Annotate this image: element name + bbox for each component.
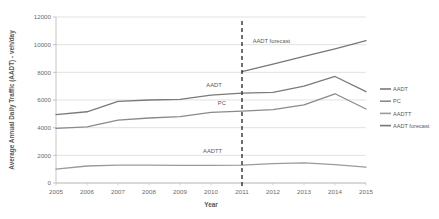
y-axis-title: Average Annual Daily Traffic (AADT) - ve… — [8, 30, 16, 170]
legend-group: AADTPCAADTTAADT forecast — [380, 86, 430, 129]
y-tick-label: 6000 — [37, 96, 51, 103]
y-tick-label: 4000 — [37, 124, 51, 131]
legend-label-aadt[interactable]: AADT — [393, 86, 409, 92]
series-line-aadtt — [56, 163, 366, 169]
x-tick-label: 2009 — [173, 188, 187, 195]
line-chart: 020004000600080001000012000 200520062007… — [0, 0, 439, 219]
chart-container: 020004000600080001000012000 200520062007… — [0, 0, 439, 219]
y-tick-label: 8000 — [37, 69, 51, 76]
x-axis-ticks-group: 2005200620072008200920102011201220132014… — [49, 183, 373, 195]
y-tick-label: 0 — [48, 179, 52, 186]
x-tick-label: 2007 — [111, 188, 125, 195]
x-tick-label: 2013 — [297, 188, 311, 195]
x-tick-label: 2008 — [142, 188, 156, 195]
series-line-pc — [56, 94, 366, 129]
axis-titles-group: Average Annual Daily Traffic (AADT) - ve… — [8, 30, 218, 208]
x-tick-label: 2012 — [266, 188, 280, 195]
legend-label-aadt-forecast[interactable]: AADT forecast — [393, 123, 430, 129]
pc-inplot-label: PC — [218, 100, 226, 106]
annotations-group: AADTPCAADTTAADT forecast — [203, 38, 291, 155]
x-tick-label: 2011 — [235, 188, 249, 195]
legend-label-pc[interactable]: PC — [393, 98, 401, 104]
x-tick-label: 2014 — [328, 188, 342, 195]
y-tick-label: 2000 — [37, 152, 51, 159]
y-axis-ticks-group: 020004000600080001000012000 — [34, 13, 56, 186]
legend-label-aadtt[interactable]: AADTT — [393, 111, 412, 117]
y-tick-label: 12000 — [34, 13, 52, 20]
series-line-aadt-forecast — [242, 41, 366, 72]
x-tick-label: 2005 — [49, 188, 63, 195]
x-tick-label: 2006 — [80, 188, 94, 195]
aadt-inplot-label: AADT — [206, 82, 222, 88]
x-axis-title: Year — [204, 201, 218, 208]
x-tick-label: 2015 — [359, 188, 373, 195]
aadt-forecast-inplot-label: AADT forecast — [253, 38, 291, 44]
y-tick-label: 10000 — [34, 41, 52, 48]
x-tick-label: 2010 — [204, 188, 218, 195]
aadtt-inplot-label: AADTT — [203, 148, 222, 154]
